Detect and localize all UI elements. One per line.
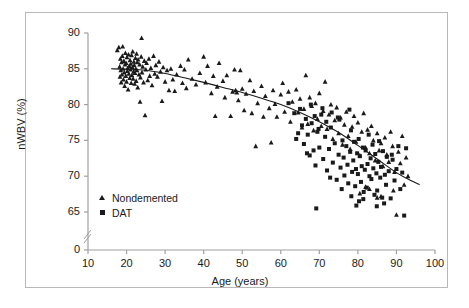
data-point — [348, 150, 352, 154]
data-point — [388, 129, 393, 134]
data-point — [292, 111, 296, 115]
data-point — [371, 138, 376, 143]
data-point — [342, 173, 346, 177]
data-point — [327, 147, 331, 151]
data-point — [178, 63, 183, 68]
data-point — [394, 212, 399, 217]
data-point — [317, 91, 322, 96]
x-tick-label: 10 — [68, 257, 108, 269]
data-point — [349, 128, 353, 132]
data-point — [240, 86, 245, 91]
x-tick-label: 30 — [145, 257, 185, 269]
data-point — [267, 106, 272, 111]
data-point — [302, 106, 307, 111]
data-point — [232, 67, 237, 72]
data-point — [342, 122, 347, 127]
data-point — [160, 98, 165, 103]
data-point — [302, 142, 306, 146]
data-point — [337, 153, 341, 157]
y-tick-label: 90 — [48, 26, 80, 38]
data-point — [400, 171, 404, 175]
data-point — [117, 64, 122, 69]
data-point — [116, 45, 121, 50]
data-point — [323, 79, 328, 84]
data-point — [236, 98, 241, 103]
data-point — [354, 204, 358, 208]
data-point — [386, 159, 391, 164]
data-point — [391, 158, 395, 162]
x-tick-label: 50 — [222, 257, 262, 269]
data-point — [375, 131, 380, 136]
x-tick-label: 70 — [299, 257, 339, 269]
data-point — [344, 144, 348, 148]
data-point — [333, 141, 337, 145]
data-point — [394, 167, 398, 171]
data-point — [363, 168, 367, 172]
data-point — [329, 102, 334, 107]
data-point — [147, 56, 152, 61]
data-point — [313, 101, 318, 106]
data-point — [261, 114, 266, 119]
data-point — [310, 121, 314, 125]
data-point — [406, 174, 411, 179]
data-point — [379, 165, 383, 169]
legend-item-nondemented: Nondemented — [96, 190, 178, 205]
data-point — [346, 181, 350, 185]
data-point — [369, 177, 373, 181]
data-point — [303, 73, 308, 78]
data-point — [325, 168, 329, 172]
data-point — [172, 88, 177, 93]
data-point — [393, 178, 397, 182]
data-point — [294, 87, 299, 92]
data-point — [398, 187, 402, 191]
data-point — [194, 82, 199, 87]
data-point — [138, 99, 143, 104]
data-point — [389, 196, 393, 200]
data-point — [350, 170, 354, 174]
data-point — [323, 135, 327, 139]
data-point — [253, 144, 258, 149]
data-point — [275, 114, 280, 119]
data-point — [217, 60, 222, 65]
data-point — [369, 156, 373, 160]
data-point — [269, 140, 274, 145]
data-point — [228, 113, 233, 118]
data-point — [167, 88, 172, 93]
data-point — [313, 163, 317, 167]
data-point — [351, 158, 355, 162]
y-tick-label: 65 — [48, 205, 80, 217]
data-point — [385, 155, 389, 159]
data-point — [306, 133, 310, 137]
x-tick-label: 40 — [184, 257, 224, 269]
data-point — [354, 167, 358, 171]
data-point — [371, 166, 375, 170]
data-point — [251, 88, 256, 93]
data-point — [375, 204, 379, 208]
data-point — [255, 101, 260, 106]
data-point — [143, 113, 148, 118]
data-point — [345, 163, 349, 167]
data-point — [141, 80, 146, 85]
data-point — [404, 146, 408, 150]
data-point — [305, 151, 309, 155]
data-point — [387, 169, 391, 173]
data-point — [307, 95, 312, 100]
data-point — [123, 50, 128, 55]
data-point — [317, 127, 321, 131]
y-tick-label: 70 — [48, 169, 80, 181]
x-tick-label: 60 — [261, 257, 301, 269]
data-point — [396, 144, 400, 148]
data-point — [352, 113, 357, 118]
data-point — [350, 124, 355, 129]
data-point — [359, 180, 363, 184]
data-point — [298, 96, 303, 101]
data-point — [321, 157, 325, 161]
data-point — [282, 109, 287, 114]
data-point — [390, 144, 395, 149]
data-point — [372, 193, 376, 197]
data-point — [375, 189, 379, 193]
data-point — [357, 199, 361, 203]
data-point — [157, 59, 162, 64]
data-point — [340, 142, 345, 147]
y-tick-label: 85 — [48, 62, 80, 74]
